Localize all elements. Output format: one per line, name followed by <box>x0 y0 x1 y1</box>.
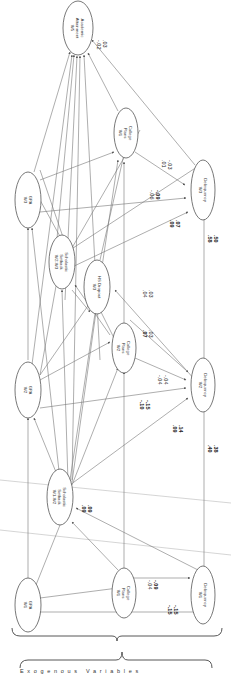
edge-cp1-ss12 <box>72 522 118 570</box>
coefficient-label: -.06-.09 <box>149 190 161 199</box>
path-diagram: AcademicAttainmentW5 CollegePlansW1 Deli… <box>0 0 231 678</box>
coefficient-label: -.04-.04 <box>157 375 169 384</box>
node-delinquency-w1: DelinquencyW1 <box>191 566 215 624</box>
edge-ss12-d2 <box>70 398 188 485</box>
coefficient-top: -.15 <box>167 605 173 614</box>
edge-d3-acad <box>92 40 195 165</box>
scan-artifact-line <box>0 530 231 555</box>
svg-text:GPAW1: GPAW1 <box>23 601 33 610</box>
node-academic-attainment-w5: AcademicAttainmentW5 <box>63 1 93 55</box>
coefficient-bottom: -.04 <box>163 375 169 384</box>
edge-gpa3-cp <box>40 152 114 180</box>
coefficient-top: .40 <box>207 445 213 453</box>
coefficient-top: .01 <box>161 160 167 168</box>
coefficient-label: -.10-.15 <box>139 400 151 409</box>
coefficient-top: .09 <box>81 505 87 513</box>
coefficient-bottom: .07 <box>175 220 181 228</box>
scan-artifact-line <box>0 480 231 503</box>
coefficient-label: -.15-.15 <box>167 605 179 614</box>
edge-gpa1-ss12 <box>34 520 62 590</box>
edge-cp2-do <box>100 310 115 340</box>
edge-ss12-cp2 <box>72 368 118 485</box>
edge-cp1top-acad <box>88 53 118 111</box>
node-scholastic-setback-w1-w2: ScholasticSetbackW1-W2 <box>47 469 73 525</box>
coefficient-top: .07 <box>142 330 148 338</box>
coefficient-bottom: -.15 <box>173 605 179 614</box>
coefficient-label: .01-.03 <box>161 160 173 169</box>
edge-gpa1-cp1 <box>40 588 118 598</box>
coefficient-bottom: .03 <box>148 330 154 338</box>
coefficient-top: -.02 <box>96 40 102 49</box>
edge-ss12-do <box>72 312 96 482</box>
coefficient-bottom: .38 <box>213 445 219 453</box>
node-gpa-w1: GPAW1 <box>15 578 41 632</box>
coefficient-top: .04 <box>142 290 148 298</box>
node-college-plans-w2: CollegePlansW2 <box>112 323 136 373</box>
coefficient-label: .09.14 <box>172 425 184 434</box>
edge-ss23-acad <box>55 55 74 260</box>
edge-ss23-gpa3 <box>40 170 64 240</box>
coefficient-bottom: .14 <box>178 425 184 434</box>
coefficient-label: .40.38 <box>207 445 219 453</box>
coefficient-top: -.04 <box>147 580 153 589</box>
coefficient-bottom: -.15 <box>145 400 151 409</box>
coefficient-label: .09.09 <box>81 505 93 513</box>
coefficient-top: .09 <box>172 425 178 433</box>
svg-text:GPAW3: GPAW3 <box>23 196 33 205</box>
coefficient-top: .09 <box>169 220 175 228</box>
coefficient-top: -.06 <box>149 190 155 199</box>
coefficient-bottom: .03 <box>148 290 154 298</box>
node-scholastic-setback-w2-w3: ScholasticSetbackW2-W3 <box>49 235 75 289</box>
coefficient-bottom: -.09 <box>153 580 159 589</box>
node-college-plans-w1: CollegePlansW1 <box>112 568 136 618</box>
coefficient-label: .07.03 <box>142 330 154 338</box>
node-delinquency-w3: DelinquencyW3 <box>191 160 215 220</box>
brace-upper <box>12 628 222 641</box>
edge-gpa3-d3 <box>40 198 186 212</box>
coefficient-top: -.10 <box>139 400 145 409</box>
coefficient-top: .58 <box>207 235 213 243</box>
coefficient-label: .09.07 <box>169 220 181 228</box>
edge-gpa2-d2 <box>40 388 186 408</box>
node-delinquency-w2: DelinquencyW2 <box>191 358 215 412</box>
coefficient-bottom: .03 <box>102 40 108 48</box>
coefficient-label: -.02.03 <box>96 40 108 49</box>
coefficient-top: -.04 <box>157 375 163 384</box>
node-college-plans-w1-top: CollegePlansW1 <box>114 108 138 158</box>
edge-gpa2-cp2 <box>40 342 110 380</box>
edge-cp2-d2 <box>130 320 188 372</box>
coefficient-bottom: .09 <box>87 505 93 513</box>
coefficient-label: -.04-.09 <box>147 580 159 589</box>
node-gpa-w3: GPAW3 <box>15 172 41 228</box>
coefficient-bottom: -.03 <box>167 160 173 169</box>
brace-lower <box>20 652 212 668</box>
coefficient-label: .04.03 <box>142 290 154 298</box>
edge-gpa2-do <box>40 300 92 375</box>
node-hs-dropout-w3: HS DropoutW3 <box>84 260 110 314</box>
coefficient-label: .58.50 <box>207 235 219 243</box>
exogenous-variables-label: Exogenous Variables <box>20 668 142 674</box>
node-gpa-w2: GPAW2 <box>15 362 41 418</box>
coefficient-bottom: .50 <box>213 235 219 243</box>
edge-ss12-ss23 <box>62 290 68 482</box>
svg-text:GPAW2: GPAW2 <box>23 386 33 395</box>
edge-d1-ss12 <box>76 508 198 570</box>
coefficient-bottom: -.09 <box>155 190 161 199</box>
